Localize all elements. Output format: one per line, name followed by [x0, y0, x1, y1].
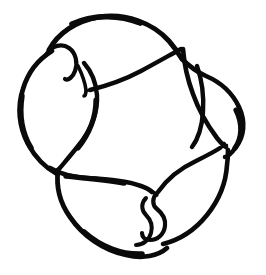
canvas-background	[0, 0, 266, 275]
knot-drawing-svg	[0, 0, 266, 275]
artboard: Trefoil knot — hand-drawn line art	[0, 0, 266, 275]
inner-sweep-taper	[86, 89, 95, 91]
